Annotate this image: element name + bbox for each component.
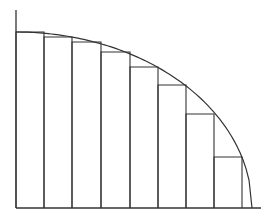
rectangle-4 (101, 52, 130, 208)
decreasing-curve (16, 32, 252, 208)
rectangle-6 (158, 85, 186, 208)
rectangle-3 (72, 42, 101, 208)
rectangle-5 (130, 67, 158, 208)
riemann-sum-diagram (0, 0, 277, 223)
inscribed-rectangles (16, 32, 242, 208)
rectangle-1 (16, 32, 44, 208)
rectangle-8 (214, 157, 242, 208)
rectangle-7 (186, 114, 214, 208)
rectangle-2 (44, 37, 72, 208)
